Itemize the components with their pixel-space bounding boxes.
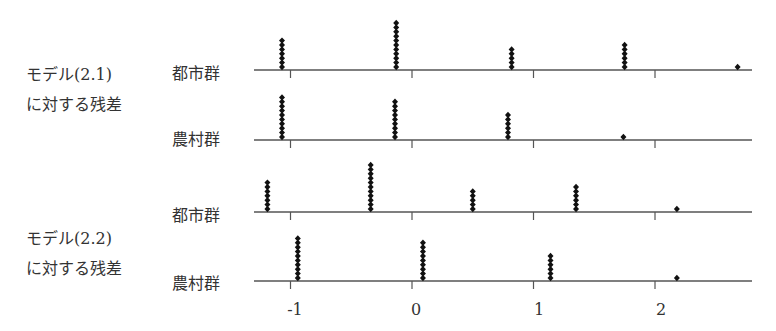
data-dot [548,253,554,259]
dot-plot [0,0,776,331]
data-dot [674,275,680,281]
x-tick-label-1: 1 [534,300,544,319]
row-rural-2-2 [254,235,752,289]
data-dot [573,184,579,190]
data-dot [279,37,285,43]
row-rural-2-1 [254,94,752,148]
x-tick-label-minus1: -1 [287,300,303,319]
data-dot [674,206,680,212]
data-dot [420,240,426,246]
x-tick-label-2: 2 [656,300,666,319]
x-tick-label-0: 0 [411,300,421,319]
data-dot [264,179,270,185]
data-dot [295,235,301,241]
data-dot [368,162,374,168]
data-dot [392,99,398,105]
data-dot [470,188,476,194]
data-dot [620,134,626,140]
data-dot [505,112,511,118]
data-dot [393,20,399,26]
row-urban-2-1 [254,20,752,78]
data-dot [735,64,741,70]
data-dot [509,46,515,52]
data-dot [622,42,628,48]
row-urban-2-2 [254,162,752,220]
data-dot [279,94,285,100]
